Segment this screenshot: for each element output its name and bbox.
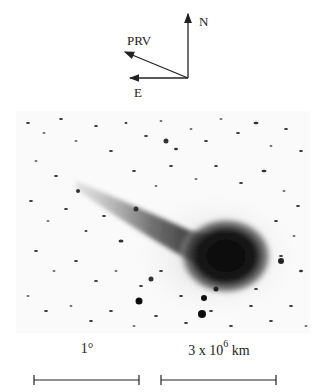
prv-arrow: [125, 52, 188, 78]
comet-image: [16, 111, 310, 333]
scale-bars: 1° 3 x 106 km: [0, 340, 330, 392]
prv-label: PRV: [127, 33, 151, 49]
compass-rose: N E PRV: [0, 0, 330, 100]
north-label: N: [199, 14, 208, 30]
scale-bar-lines-icon: [0, 340, 330, 392]
east-label: E: [134, 85, 142, 101]
comet-photo-icon: [16, 111, 310, 333]
compass-arrows-icon: [0, 0, 330, 100]
